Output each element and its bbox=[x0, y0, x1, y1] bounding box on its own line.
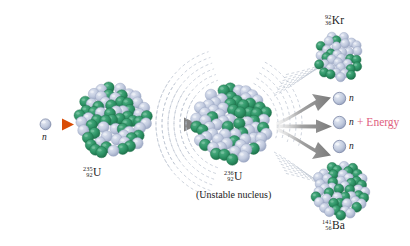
nucleon-highlight bbox=[241, 136, 245, 139]
nucleon-highlight bbox=[92, 146, 96, 149]
nucleon-highlight bbox=[333, 38, 336, 40]
nucleon-highlight bbox=[245, 109, 249, 112]
nucleon-highlight bbox=[85, 115, 89, 118]
nucleon-highlight bbox=[102, 99, 106, 102]
nucleon-highlight bbox=[347, 210, 350, 212]
nucleon-highlight bbox=[209, 144, 213, 147]
nucleon-highlight bbox=[196, 104, 200, 107]
nucleon-highlight bbox=[334, 194, 337, 196]
nucleon-highlight bbox=[321, 70, 324, 72]
nucleon bbox=[324, 37, 333, 46]
nucleon-highlight bbox=[103, 133, 107, 136]
nucleon-highlight bbox=[345, 175, 348, 177]
nucleon-highlight bbox=[347, 187, 350, 189]
nucleon-highlight bbox=[342, 194, 345, 196]
nucleon-highlight bbox=[240, 153, 244, 156]
nucleon-highlight bbox=[221, 151, 225, 154]
nucleon-highlight bbox=[259, 124, 263, 127]
nucleon-highlight bbox=[330, 172, 333, 174]
nucleon-highlight bbox=[326, 209, 329, 211]
nucleon-highlight bbox=[212, 150, 216, 153]
nucleon-highlight bbox=[124, 100, 128, 103]
fission-diagram: n 235 92 U 236 92 U (Unstable nucleus) 9… bbox=[0, 0, 410, 246]
nucleon-highlight bbox=[90, 91, 94, 94]
uranium-235-numbers: 235 92 bbox=[83, 166, 93, 179]
nucleon-highlight bbox=[193, 115, 197, 118]
nucleon-highlight bbox=[341, 34, 344, 36]
nucleon-highlight bbox=[342, 41, 345, 43]
nucleon-highlight bbox=[344, 201, 347, 203]
nucleon-highlight bbox=[121, 139, 125, 142]
nucleon-highlight bbox=[329, 34, 332, 36]
nucleon-highlight bbox=[78, 119, 82, 122]
nucleon-highlight bbox=[323, 196, 326, 198]
nucleon-highlight bbox=[93, 117, 97, 120]
nucleon-highlight bbox=[120, 132, 124, 135]
nucleon-highlight bbox=[354, 43, 357, 45]
nucleon-highlight bbox=[119, 126, 123, 129]
nucleon-highlight bbox=[227, 94, 231, 97]
nucleon-highlight bbox=[242, 146, 246, 149]
nucleon-highlight bbox=[103, 144, 107, 147]
nucleon-highlight bbox=[226, 100, 230, 103]
nucleon-highlight bbox=[91, 130, 95, 133]
nucleon-highlight bbox=[334, 167, 337, 169]
nucleon-highlight bbox=[201, 117, 205, 120]
nucleon-highlight bbox=[340, 172, 343, 174]
nucleon-highlight bbox=[324, 47, 327, 49]
uranium-236-label: 236 92 U bbox=[224, 170, 242, 183]
nucleon-highlight bbox=[327, 65, 330, 67]
nucleon-highlight bbox=[327, 72, 330, 74]
nucleon-highlight bbox=[116, 85, 120, 88]
nucleon-highlight bbox=[97, 109, 101, 112]
nucleon bbox=[346, 70, 355, 79]
nucleon-highlight bbox=[143, 113, 147, 116]
nucleon-highlight bbox=[262, 109, 266, 112]
emitted-neutron-2 bbox=[333, 116, 345, 128]
nucleon-highlight bbox=[231, 148, 235, 151]
nucleon-highlight bbox=[100, 124, 104, 127]
krypton-92-nucleus bbox=[315, 32, 362, 82]
emitted-neutron-1-label: n bbox=[349, 94, 354, 104]
nucleon-highlight bbox=[355, 187, 358, 189]
nucleon-highlight bbox=[76, 112, 80, 115]
nucleon-highlight bbox=[136, 111, 140, 114]
nucleon-highlight bbox=[313, 194, 316, 196]
nucleon-highlight bbox=[82, 98, 86, 101]
uranium-236-numbers: 236 92 bbox=[224, 170, 234, 183]
nucleon-highlight bbox=[338, 55, 341, 57]
nucleon-highlight bbox=[228, 156, 232, 159]
barium-141-label: 141 56 Ba bbox=[322, 219, 345, 232]
nucleon-highlight bbox=[84, 134, 88, 137]
nucleon-highlight bbox=[341, 163, 344, 165]
nucleon-highlight bbox=[207, 91, 211, 94]
incoming-neutron bbox=[40, 119, 51, 130]
nucleon-highlight bbox=[112, 95, 116, 98]
energy-label: + Energy bbox=[357, 117, 399, 129]
nucleon-highlight bbox=[102, 117, 106, 120]
nucleon-highlight bbox=[334, 52, 337, 54]
nucleon-highlight bbox=[237, 142, 241, 145]
nucleon-highlight bbox=[342, 208, 345, 210]
nucleon-highlight bbox=[323, 54, 326, 56]
nucleon-highlight bbox=[321, 171, 324, 173]
nucleon-highlight bbox=[193, 123, 197, 126]
nucleon-highlight bbox=[96, 139, 100, 142]
nucleon bbox=[336, 73, 345, 82]
nucleon-highlight bbox=[119, 146, 123, 149]
nucleon-highlight bbox=[83, 107, 87, 110]
barium-141-nucleus bbox=[311, 161, 370, 220]
nucleon-highlight bbox=[338, 74, 341, 76]
nucleon-highlight bbox=[338, 65, 341, 67]
nucleon-highlight bbox=[136, 118, 140, 121]
nucleon bbox=[340, 39, 349, 48]
nucleon-highlight bbox=[321, 205, 324, 207]
nucleon-highlight bbox=[142, 120, 146, 123]
nucleon bbox=[326, 70, 335, 79]
nucleon-highlight bbox=[362, 189, 365, 191]
nucleon-highlight bbox=[315, 174, 318, 176]
nucleon-highlight bbox=[136, 125, 140, 128]
nucleon-highlight bbox=[108, 102, 112, 105]
krypton-92-numbers: 92 36 bbox=[325, 14, 331, 27]
nucleon-highlight bbox=[113, 136, 117, 139]
